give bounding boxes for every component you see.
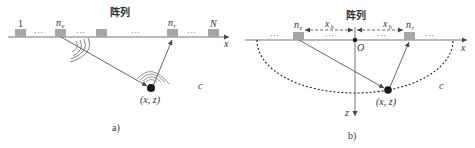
panel-b-medium-label: c: [439, 80, 444, 91]
ellipsis: ···: [131, 28, 141, 37]
panel-a-caption: a): [112, 122, 120, 134]
scatterer-point: [384, 86, 392, 94]
svg-text:n: n: [168, 17, 173, 28]
svg-text:n: n: [406, 19, 411, 30]
incident-ray: [299, 40, 384, 88]
array-element-1: [15, 29, 26, 37]
panel-a: 阵列 x 1 n e n r N ··· ··· ··· ···: [8, 6, 229, 134]
element-label-emitter: n e: [294, 19, 303, 31]
panel-a-source-label: (x, z): [140, 94, 161, 106]
ellipsis: ···: [325, 31, 335, 40]
array-element-emitter: [55, 29, 66, 37]
half-offset-label-left: x h: [324, 18, 334, 30]
ellipsis: ···: [270, 31, 280, 40]
panel-a-medium-label: c: [198, 80, 203, 91]
svg-text:e: e: [62, 22, 65, 29]
scattered-ray: [390, 42, 409, 87]
element-label-receiver: n r: [406, 19, 415, 31]
array-element-emitter: [293, 32, 304, 40]
ellipsis: ···: [34, 28, 44, 37]
ellipsis: ···: [187, 28, 197, 37]
array-element: [96, 29, 107, 37]
svg-text:e: e: [300, 24, 303, 31]
panel-b-title: 阵列: [346, 9, 366, 21]
element-label-N: N: [209, 18, 218, 29]
svg-text:x: x: [324, 18, 330, 29]
ellipsis: ···: [425, 31, 435, 40]
ellipsis: ···: [76, 28, 86, 37]
origin-label: O: [357, 42, 364, 53]
array-element-receiver: [404, 32, 415, 40]
scattered-wave-icon: [137, 72, 169, 84]
incident-ray: [61, 37, 147, 86]
ellipsis: ···: [377, 31, 387, 40]
svg-text:r: r: [412, 24, 415, 31]
array-imaging-diagram: 阵列 x 1 n e n r N ··· ··· ··· ···: [0, 0, 475, 148]
svg-text:n: n: [294, 19, 299, 30]
panel-b-z-axis-label: z: [344, 107, 349, 118]
array-element-N: [208, 29, 219, 37]
array-element-receiver: [167, 29, 178, 37]
scatterer-point: [147, 84, 155, 92]
svg-text:x: x: [382, 18, 388, 29]
svg-text:r: r: [174, 22, 177, 29]
element-label-1: 1: [18, 18, 23, 29]
svg-text:h: h: [331, 23, 334, 30]
panel-a-title: 阵列: [110, 6, 130, 18]
panel-b-source-label: (x, z): [376, 96, 397, 108]
half-offset-label-right: x h: [382, 18, 392, 30]
panel-b-caption: b): [348, 130, 356, 142]
emitted-wave-icon: [70, 38, 90, 62]
panel-b: 阵列 x z O n e n r x h x h: [245, 9, 467, 142]
panel-a-x-axis-label: x: [223, 38, 229, 49]
panel-b-x-axis-label: x: [460, 42, 466, 53]
svg-text:n: n: [56, 17, 61, 28]
svg-text:h: h: [389, 23, 392, 30]
element-label-receiver: n r: [168, 17, 177, 29]
element-label-emitter: n e: [56, 17, 65, 29]
